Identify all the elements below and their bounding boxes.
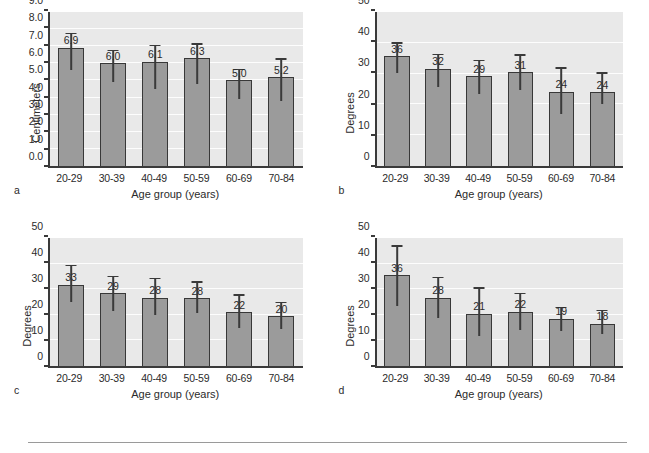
y-axis-tick-mark	[371, 339, 375, 341]
bar-slot: 29	[92, 238, 134, 366]
y-axis-tick-mark	[371, 134, 375, 136]
plot-area: 6.96.06.16.35.05.2	[48, 12, 303, 168]
bar-value-label: 18	[597, 311, 609, 322]
plot-wrapper: 6.96.06.16.35.05.20.01.02.03.04.05.06.07…	[48, 12, 303, 168]
y-axis-tick-mark	[371, 365, 375, 367]
bar-value-label: 24	[556, 79, 568, 90]
bar-value-label: 6.3	[190, 46, 205, 57]
bar-slot: 21	[459, 238, 500, 366]
x-axis-tick-labels: 20-2930-3940-4950-5960-6970-84	[375, 368, 624, 384]
error-bar-cap-top	[515, 293, 526, 295]
y-axis-tick-mark	[44, 61, 48, 63]
x-axis-tick-label: 60-69	[540, 168, 581, 184]
error-bar-stem	[396, 247, 398, 306]
bar-slot: 31	[500, 12, 541, 166]
x-axis-tick-label: 40-49	[457, 168, 498, 184]
error-bar-cap-top	[433, 277, 444, 279]
y-axis-tick-label: 30	[32, 272, 48, 284]
bar-value-label: 28	[191, 286, 203, 297]
bar-value-label: 5.0	[232, 68, 247, 79]
y-axis-tick-label: 0	[364, 350, 375, 362]
y-axis-tick-mark	[371, 235, 375, 237]
y-axis-tick-mark	[44, 130, 48, 132]
x-axis-tick-label: 30-39	[416, 168, 457, 184]
bar-value-label: 22	[514, 299, 526, 310]
y-axis-tick-label: 9.0	[29, 0, 48, 6]
y-axis-label: Degrees	[343, 305, 355, 347]
y-axis-tick-label: 0	[364, 150, 375, 162]
bar-value-label: 19	[556, 306, 568, 317]
y-axis-tick-mark	[371, 9, 375, 11]
x-axis-tick-labels: 20-2930-3940-4950-5960-6970-84	[375, 168, 624, 184]
bar-slot: 20	[260, 238, 302, 366]
bar-slot: 36	[377, 238, 418, 366]
y-axis-tick-mark	[44, 44, 48, 46]
y-axis-tick-label: 8.0	[29, 11, 48, 23]
y-axis-tick-label: 0	[37, 350, 48, 362]
y-axis-tick-mark	[371, 103, 375, 105]
y-axis-tick-mark	[44, 235, 48, 237]
bar-slot: 18	[582, 238, 623, 366]
bar-slot: 29	[459, 12, 500, 166]
y-axis-tick-mark	[44, 78, 48, 80]
x-axis-tick-labels: 20-2930-3940-4950-5960-6970-84	[48, 168, 303, 184]
y-axis-tick-label: 30	[358, 56, 374, 68]
y-axis-tick-label: 40	[32, 246, 48, 258]
bar-slot: 22	[218, 238, 260, 366]
y-axis-tick-mark	[371, 287, 375, 289]
error-bar-cap-top	[474, 287, 485, 289]
y-axis-tick-label: 10	[358, 119, 374, 131]
bar-value-label: 24	[597, 80, 609, 91]
y-axis-tick-mark	[371, 261, 375, 263]
error-bar-cap-top	[234, 294, 245, 296]
x-axis-tick-label: 40-49	[133, 368, 175, 384]
x-axis-tick-label: 40-49	[457, 368, 498, 384]
panel-letter: d	[339, 384, 345, 396]
error-bar-cap-top	[474, 60, 485, 62]
x-axis-tick-label: 20-29	[375, 168, 416, 184]
y-axis-tick-mark	[44, 148, 48, 150]
chart-panel-d: Extension36282122191801020304050Degrees2…	[325, 226, 649, 426]
bar-slot: 32	[418, 12, 459, 166]
bar-slot: 33	[50, 238, 92, 366]
bar-value-label: 32	[432, 56, 444, 67]
error-bar-cap-top	[556, 67, 567, 69]
y-axis-tick-label: 20	[358, 298, 374, 310]
y-axis-tick-mark	[44, 365, 48, 367]
x-axis-tick-label: 70-84	[582, 368, 623, 384]
y-axis-tick-label: 6.0	[29, 46, 48, 58]
x-axis-tick-label: 50-59	[499, 368, 540, 384]
y-axis-tick-label: 10	[358, 324, 374, 336]
x-axis-tick-label: 20-29	[48, 168, 90, 184]
bar-slot: 6.1	[134, 12, 176, 166]
bar-slot: 6.3	[176, 12, 218, 166]
plot-area: 362821221918	[375, 238, 624, 368]
bar-slot: 6.9	[50, 12, 92, 166]
bar-series: 363229312424	[377, 12, 624, 166]
error-bar-cap-top	[192, 281, 203, 283]
y-axis-label: Degrees	[343, 92, 355, 134]
y-axis-tick-mark	[371, 313, 375, 315]
bar-value-label: 21	[473, 301, 485, 312]
bar-value-label: 6.1	[148, 49, 163, 60]
y-axis-tick-label: 50	[358, 0, 374, 6]
bar-slot: 28	[418, 238, 459, 366]
plot-wrapper: 33292828222001020304050	[48, 238, 303, 368]
x-axis-tick-labels: 20-2930-3940-4950-5960-6970-84	[48, 368, 303, 384]
panel-letter: a	[14, 184, 20, 196]
y-axis-tick-label: 10	[32, 324, 48, 336]
x-axis-tick-label: 60-69	[540, 368, 581, 384]
figure-panel-grid: Anterior flexion6.96.06.16.35.05.20.01.0…	[0, 0, 649, 453]
x-axis-label: Age group (years)	[375, 188, 624, 200]
y-axis-tick-label: 7.0	[29, 29, 48, 41]
panel-letter: b	[339, 184, 345, 196]
y-axis-tick-label: 5.0	[29, 63, 48, 75]
bar-slot: 24	[582, 12, 623, 166]
chart-panel-c: Left lateral flexion33292828222001020304…	[0, 226, 325, 426]
y-axis-tick-mark	[371, 40, 375, 42]
bar-value-label: 29	[473, 64, 485, 75]
bar-value-label: 28	[432, 285, 444, 296]
x-axis-tick-label: 30-39	[90, 168, 132, 184]
bar-slot: 19	[541, 238, 582, 366]
y-axis-tick-label: 20	[358, 88, 374, 100]
